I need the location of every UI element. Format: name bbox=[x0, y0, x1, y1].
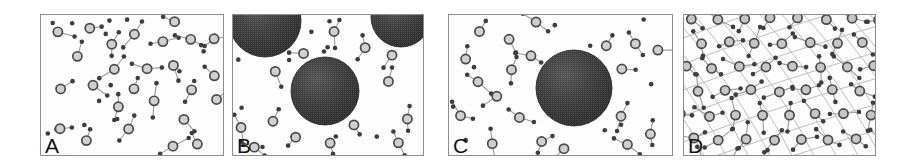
nanocrystal-spheres bbox=[536, 50, 612, 126]
panel-a: A bbox=[40, 14, 224, 156]
bond-lines bbox=[58, 17, 223, 154]
panel-b-label: B bbox=[237, 135, 251, 156]
panel-c-label: C bbox=[453, 135, 468, 156]
panel-c: C bbox=[448, 14, 673, 156]
panel-a-diagram bbox=[41, 15, 223, 155]
nanocrystal-spheres bbox=[233, 15, 423, 125]
panel-d-label: D bbox=[688, 135, 703, 156]
panel-c-diagram bbox=[449, 15, 672, 155]
figure-root: ABCD bbox=[0, 0, 907, 164]
panel-d: D bbox=[683, 14, 876, 156]
panel-d-diagram bbox=[684, 15, 875, 155]
panel-b-diagram bbox=[233, 15, 423, 155]
panel-a-label: A bbox=[45, 135, 59, 156]
panel-b: B bbox=[232, 14, 424, 156]
